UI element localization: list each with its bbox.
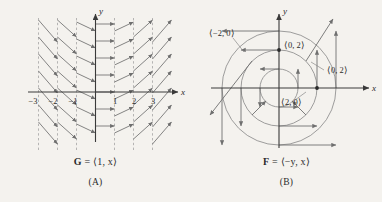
formula-symbol-a: G bbox=[74, 156, 82, 167]
tick-label: −3 bbox=[28, 96, 37, 106]
tick-label: −1 bbox=[68, 96, 77, 106]
panel-label-a: (A) bbox=[0, 177, 191, 187]
point-0-2 bbox=[277, 48, 281, 52]
y-axis-label-b: y bbox=[282, 6, 287, 16]
formula-body-b: = ⟨−y, x⟩ bbox=[269, 156, 310, 167]
panel-b-plot: x y ⟨−2, 0⟩ ⟨0, 2⟩ ⟨0, 2⟩ ⟨2, 0⟩ bbox=[191, 0, 382, 155]
vector-field-figure: x y −3 −2 −1 1 2 3 G = ⟨1, x⟩ (A) bbox=[0, 0, 382, 202]
y-axis-label-a: y bbox=[98, 6, 103, 16]
x-axis-label-a: x bbox=[180, 87, 185, 97]
tick-label: 1 bbox=[113, 96, 117, 106]
panel-a: x y −3 −2 −1 1 2 3 G = ⟨1, x⟩ (A) bbox=[0, 0, 191, 202]
tick-label: −2 bbox=[48, 96, 57, 106]
formula-caption-a: G = ⟨1, x⟩ bbox=[0, 156, 191, 167]
panel-b: x y ⟨−2, 0⟩ ⟨0, 2⟩ ⟨0, 2⟩ ⟨2, 0⟩ F = ⟨−y… bbox=[191, 0, 382, 202]
point-label-0-2-right: ⟨0, 2⟩ bbox=[327, 65, 348, 75]
point-label-neg2-0: ⟨−2, 0⟩ bbox=[209, 28, 235, 38]
vector-field-g bbox=[39, 20, 172, 144]
x-axis-label-b: x bbox=[371, 83, 376, 93]
panel-label-b: (B) bbox=[191, 177, 382, 187]
point-label-2-0: ⟨2, 0⟩ bbox=[281, 97, 302, 107]
formula-body-a: = ⟨1, x⟩ bbox=[82, 156, 117, 167]
tick-label: 2 bbox=[132, 96, 136, 106]
formula-caption-b: F = ⟨−y, x⟩ bbox=[191, 156, 382, 167]
axes-a bbox=[28, 14, 178, 142]
point-label-0-2-left: ⟨0, 2⟩ bbox=[284, 40, 305, 50]
tick-label: 3 bbox=[151, 96, 155, 106]
axes-b bbox=[211, 14, 369, 148]
panel-a-plot: x y −3 −2 −1 1 2 3 bbox=[0, 0, 191, 155]
point-2-0 bbox=[315, 86, 319, 90]
